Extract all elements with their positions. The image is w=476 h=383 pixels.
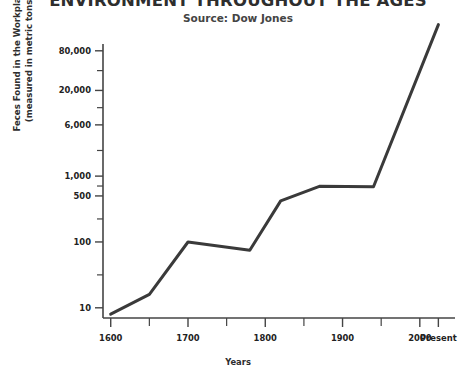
x-tick-label: 1800: [254, 333, 277, 343]
y-tick-label: 100: [74, 237, 92, 247]
y-tick-label: 80,000: [59, 46, 91, 56]
y-tick-label: 500: [74, 191, 92, 201]
data-series-line: [111, 25, 439, 315]
chart-container: ENVIRONMENT THROUGHOUT THE AGES Source: …: [0, 0, 476, 383]
y-tick-label: 1,000: [65, 171, 92, 181]
x-tick-label: 1900: [331, 333, 354, 343]
axis-lines: [103, 44, 455, 318]
x-axis-ticks: 16001700180019002000Present: [99, 318, 457, 343]
y-tick-label: 6,000: [65, 120, 92, 130]
y-tick-label: 20,000: [59, 85, 91, 95]
plot-area: 101005001,0006,00020,00080,000 160017001…: [0, 0, 476, 383]
x-tick-label: 1700: [176, 333, 199, 343]
y-axis-ticks: 101005001,0006,00020,00080,000: [59, 46, 103, 313]
x-tick-label: Present: [420, 333, 457, 343]
x-tick-label: 1600: [99, 333, 122, 343]
y-tick-label: 10: [79, 303, 91, 313]
